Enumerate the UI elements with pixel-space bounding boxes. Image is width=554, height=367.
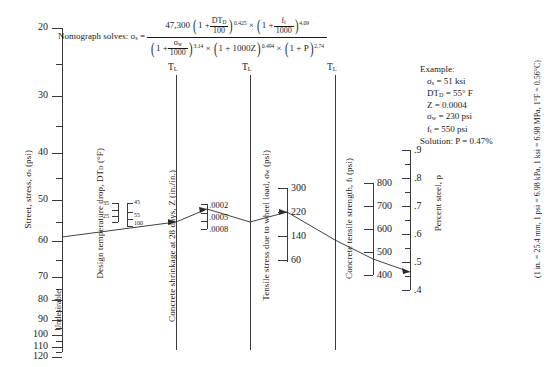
dtd-fraction: DTD100 <box>210 17 229 35</box>
tick-label-ft-400: 400 <box>377 269 392 280</box>
tick-label-ft-800: 800 <box>377 177 392 188</box>
tick-label-z-0008: .0008 <box>209 224 228 234</box>
example-title: Example: <box>420 64 493 76</box>
tick-label-p-6: .6 <box>414 228 422 239</box>
tick-label-steel-60: 60 <box>22 234 48 245</box>
axis-title-concrete-shrinkage: Concrete shrinkage at 28 days, Z (in./in… <box>168 170 177 322</box>
sigmaw-fraction: σw1000 <box>168 39 188 57</box>
tick-label-z-0002: .0002 <box>209 200 228 210</box>
tick-label-dtd-45: 45 <box>134 199 140 205</box>
example-line-z: Z = 0.0004 <box>427 100 493 112</box>
tick-label-dtd-25: 25 <box>103 213 109 219</box>
paren-open-3: ( <box>151 39 155 59</box>
paren-close-4: ) <box>257 39 261 59</box>
tick-label-ft-500: 500 <box>377 246 392 257</box>
solution-path-arrowheads <box>168 207 410 274</box>
tick-label-dtd-35: 35 <box>103 200 109 206</box>
formula-block: Nomograph solves: σs = 47,300 (1 +DTD100… <box>58 16 448 58</box>
paren-open-4: ( <box>214 39 218 59</box>
turning-line-label-2: TL <box>242 62 252 72</box>
tick-label-z-0005: .0005 <box>209 212 228 222</box>
example-line-ft: ft = 550 psi <box>427 124 493 136</box>
example-line-dtd: DTD = 55° F <box>427 88 493 100</box>
tick-label-sigmaw-140: 140 <box>291 230 306 241</box>
example-line-sigma-s: σs = 51 ksi <box>427 76 493 88</box>
tick-label-steel-30: 30 <box>22 89 48 100</box>
ft-fraction: ft1000 <box>274 17 294 35</box>
tick-label-steel-20: 20 <box>22 21 48 32</box>
tick-label-p-5: .5 <box>414 256 422 267</box>
example-solution: Solution: P = 0.47% <box>420 136 493 148</box>
tick-label-steel-50: 50 <box>22 193 48 204</box>
tick-label-sigmaw-220: 220 <box>291 206 306 217</box>
paren-close-1: ) <box>229 16 233 36</box>
turning-line-label-1: TL <box>168 62 178 72</box>
paren-open-1: ( <box>193 16 197 36</box>
tick-label-steel-100: 100 <box>16 328 48 339</box>
formula-numerator: 47,300 (1 +DTD100)0.425 × (1 +ft1000)4.0… <box>147 16 327 37</box>
tick-label-sigmaw-60: 60 <box>291 254 301 265</box>
tick-label-dtd-55: 55 <box>134 212 140 218</box>
paren-open-5: ( <box>285 39 289 59</box>
formula-lead: Nomograph solves: σs = <box>58 31 147 41</box>
tick-label-p-4: .4 <box>414 284 422 295</box>
axis-title-wheel-load-stress: Tensile stress due to wheel load, σw (ps… <box>262 150 271 301</box>
tick-label-ft-700: 700 <box>377 200 392 211</box>
tick-label-steel-80: 80 <box>22 293 48 304</box>
nomograph-figure: Nomograph solves: σs = 47,300 (1 +DTD100… <box>0 0 554 367</box>
tick-label-p-8: .8 <box>414 172 422 183</box>
paren-close-3: ) <box>189 39 193 59</box>
paren-close-5: ) <box>310 39 314 59</box>
unit-conversion-footnote: (1 in. = 25.4 mm, 1 psi = 6.98 kPa, 1 ks… <box>534 60 542 278</box>
tick-label-steel-90: 90 <box>22 313 48 324</box>
tick-label-steel-40: 40 <box>22 146 48 157</box>
axis-title-percent-steel: Percent steel, p <box>434 175 443 231</box>
paren-open-2: ( <box>257 16 261 36</box>
tick-label-sigmaw-300: 300 <box>291 182 306 193</box>
tick-label-p-7: .7 <box>414 200 422 211</box>
tick-label-ft-600: 600 <box>377 223 392 234</box>
solution-path <box>62 209 410 272</box>
paren-close-2: ) <box>295 16 299 36</box>
formula-denominator: (1 +σw1000)3.14 × (1 + 1000Z)0.494 × (1 … <box>147 37 327 59</box>
tick-label-dtd-100: 100 <box>134 220 143 226</box>
axis-title-steel-stress: Street, stress, σs (psi) <box>24 150 33 228</box>
formula-fraction: 47,300 (1 +DTD100)0.425 × (1 +ft1000)4.0… <box>147 16 327 58</box>
tick-label-steel-120: 120 <box>16 350 48 361</box>
axis-title-concrete-tensile-strength: Concrete tensile strength, ft (psi) <box>345 158 354 279</box>
example-line-sigma-w: σw = 230 psi <box>427 111 493 123</box>
tick-label-steel-70: 70 <box>22 270 48 281</box>
turning-line-label-3: TL <box>327 62 337 72</box>
example-block: Example: σs = 51 ksi DTD = 55° F Z = 0.0… <box>420 64 493 147</box>
undesirable-label: Undesirable <box>54 290 63 331</box>
